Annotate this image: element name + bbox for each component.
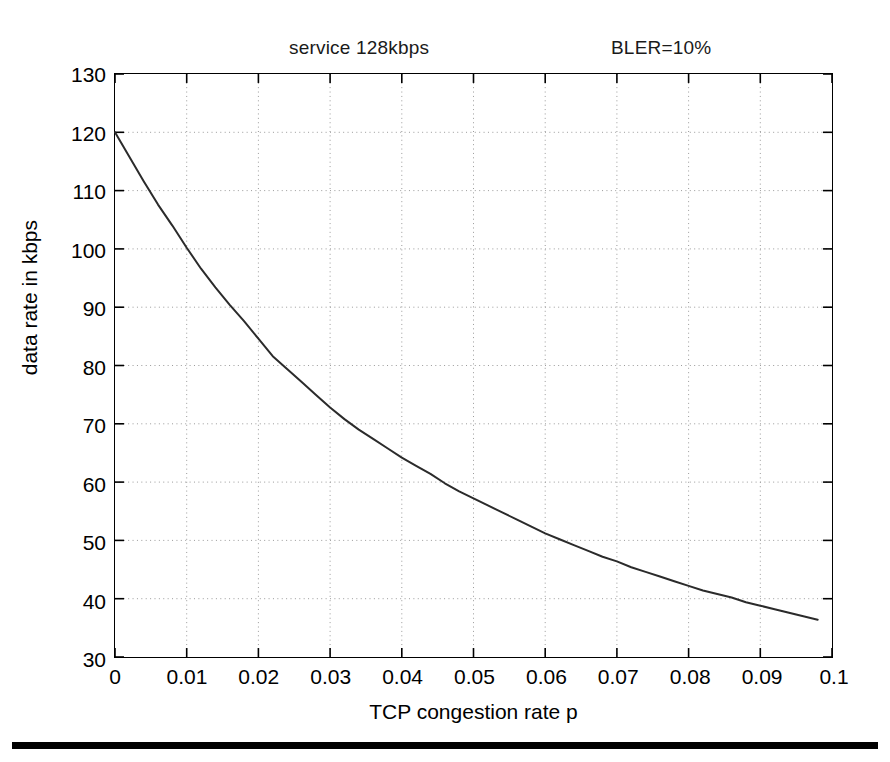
y-axis-tick-label: 110 bbox=[73, 181, 106, 202]
x-axis-tick-label: 0 bbox=[109, 666, 121, 687]
y-axis-tick-label: 70 bbox=[83, 415, 106, 436]
x-axis-tick-label: 0.06 bbox=[526, 666, 567, 687]
x-axis-tick-label: 0.03 bbox=[310, 666, 351, 687]
plot-area: 30405060708090100110120130 00.010.020.03… bbox=[114, 73, 833, 658]
y-axis-title: data rate in kbps bbox=[18, 220, 42, 375]
x-axis-tick-label: 0.08 bbox=[670, 666, 711, 687]
x-axis-tick-label: 0.05 bbox=[454, 666, 495, 687]
y-axis-tick-label: 100 bbox=[71, 239, 106, 260]
x-axis-tick-label: 0.09 bbox=[742, 666, 783, 687]
x-axis-tick-label: 0.07 bbox=[598, 666, 639, 687]
y-axis-tick-label: 30 bbox=[83, 649, 106, 670]
annotation-service: service 128kbps bbox=[289, 37, 429, 59]
data-curve-layer bbox=[115, 74, 832, 657]
x-axis-tick-label: 0.01 bbox=[166, 666, 207, 687]
x-axis-title: TCP congestion rate p bbox=[114, 700, 833, 724]
y-axis-tick-label: 80 bbox=[83, 356, 106, 377]
y-axis-tick-label: 60 bbox=[83, 473, 106, 494]
y-axis-tick-label: 90 bbox=[83, 298, 106, 319]
data-series-line bbox=[115, 132, 818, 619]
x-axis-tick-label: 0.1 bbox=[819, 666, 848, 687]
figure-canvas: service 128kbps BLER=10% 304050607080901… bbox=[0, 0, 890, 762]
y-axis-tick-label: 130 bbox=[71, 64, 106, 85]
x-axis-tick-label: 0.04 bbox=[382, 666, 423, 687]
y-axis-tick-label: 120 bbox=[71, 122, 106, 143]
bottom-rule-divider bbox=[12, 742, 878, 749]
y-axis-tick-label: 40 bbox=[83, 590, 106, 611]
annotation-bler: BLER=10% bbox=[611, 37, 711, 59]
y-axis-tick-label: 50 bbox=[83, 532, 106, 553]
x-axis-tick-label: 0.02 bbox=[238, 666, 279, 687]
